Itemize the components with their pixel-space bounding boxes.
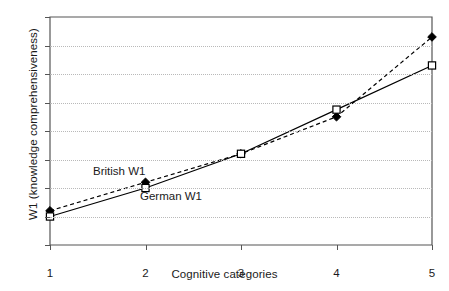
xtick-mark-1	[50, 245, 51, 250]
ytick-mark-40	[45, 188, 50, 189]
ytick-mark-20	[45, 217, 50, 218]
marker-square	[237, 150, 244, 157]
xtick-label-5: 5	[429, 267, 435, 279]
y-axis-title: W1 (knowledge comprehensiveness)	[27, 0, 39, 249]
xtick-mark-5	[432, 245, 433, 250]
ytick-mark-140	[45, 46, 50, 47]
xtick-mark-4	[337, 245, 338, 250]
gridline-y-100	[50, 103, 432, 104]
gridline-y-20	[50, 217, 432, 218]
gridline-y-140	[50, 46, 432, 47]
chart-figure: W1 (knowledge comprehensiveness) Cogniti…	[0, 0, 449, 291]
gridline-y-80	[50, 131, 432, 132]
marker-square	[333, 106, 340, 113]
xtick-mark-3	[241, 245, 242, 250]
ytick-mark-80	[45, 131, 50, 132]
series-layer	[46, 33, 437, 220]
series-line	[50, 37, 432, 211]
gridline-y-40	[50, 188, 432, 189]
xtick-label-4: 4	[333, 267, 339, 279]
ytick-mark-160	[45, 17, 50, 18]
xtick-label-1: 1	[47, 267, 53, 279]
xtick-mark-2	[146, 245, 147, 250]
gridline-y-120	[50, 74, 432, 75]
ytick-mark-120	[45, 74, 50, 75]
annotation-german-w1: German W1	[140, 190, 202, 202]
ytick-mark-60	[45, 160, 50, 161]
marker-square	[428, 62, 435, 69]
ytick-mark-100	[45, 103, 50, 104]
series-german-w1	[46, 62, 435, 220]
plot-area: 160 140 120 100 80 60 40 20 0 1 2 3 4 5	[50, 17, 432, 245]
annotation-british-w1: British W1	[93, 165, 145, 177]
xtick-label-3: 3	[238, 267, 244, 279]
gridline-y-60	[50, 160, 432, 161]
xtick-label-2: 2	[142, 267, 148, 279]
x-axis-title: Cognitive categories	[0, 268, 449, 280]
